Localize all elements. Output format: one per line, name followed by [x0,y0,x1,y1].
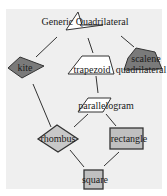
parallelogram-label: parallelogram [78,100,134,111]
edge-generic-kite [36,37,57,57]
edge-parallelogram-rhombus [74,114,88,127]
kite-label: kite [18,62,34,73]
node-kite[interactable]: kite [8,57,44,78]
node-trapezoid[interactable]: trapezoid [68,56,114,75]
trapezoid-label: trapezoid [73,64,110,75]
edge-generic-scalene [121,36,134,47]
node-rhombus[interactable]: rhombus [38,125,78,152]
quadrilateral-hierarchy-diagram: Generic Quadrilateral kite scalene trape… [0,0,167,196]
square-label: square [82,174,109,185]
edge-parallelogram-rectangle [106,114,116,126]
node-rectangle[interactable]: rectangle [110,128,148,149]
scalene-label: scalene [131,53,161,64]
edge-generic-trapezoid [88,38,93,53]
node-square[interactable]: square [82,170,109,189]
rectangle-label: rectangle [111,133,148,144]
edge-trapezoid-parallelogram [96,76,98,93]
node-generic-quadrilateral[interactable]: Generic Quadrilateral [42,12,129,30]
edge-rhombus-square [70,150,84,167]
rhombus-label: rhombus [41,133,76,144]
generic-quadrilateral-label: Generic Quadrilateral [42,16,129,27]
scalene-label-line2: quadrilateral [116,64,167,75]
edge-kite-rhombus [33,84,51,127]
node-parallelogram[interactable]: parallelogram [78,98,134,112]
edge-rectangle-square [104,152,119,166]
